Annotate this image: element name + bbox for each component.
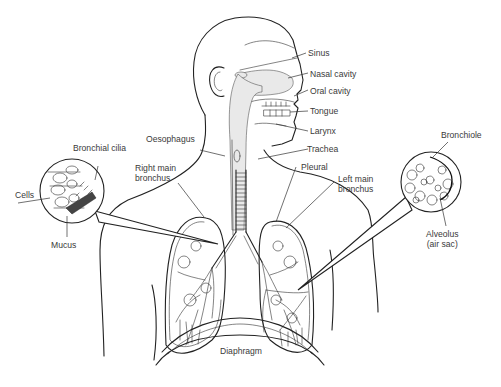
anatomy-illustration <box>0 0 501 387</box>
label-tongue: Tongue <box>310 106 338 116</box>
label-sinus: Sinus <box>308 48 330 58</box>
label-mucus: Mucus <box>51 240 76 250</box>
label-nasal-cavity: Nasal cavity <box>310 69 356 79</box>
label-oesophagus: Oesophagus <box>146 134 195 144</box>
left-inset-pointer <box>95 211 218 244</box>
right-inset-pointer <box>298 197 412 290</box>
left-lung <box>259 221 314 352</box>
label-right-main-bronchus: Right main bronchus <box>135 163 176 183</box>
label-cells: Cells <box>15 190 34 200</box>
label-bronchial-cilia: Bronchial cilia <box>73 143 126 153</box>
label-left-main-bronchus: Left main bronchus <box>338 174 373 194</box>
label-trachea: Trachea <box>307 144 338 154</box>
respiratory-diagram: Sinus Nasal cavity Oral cavity Tongue La… <box>0 0 501 387</box>
label-diaphragm: Diaphragm <box>220 346 262 356</box>
ear <box>210 67 224 97</box>
label-pleural: Pleural <box>301 162 328 172</box>
label-larynx: Larynx <box>310 126 336 136</box>
label-oral-cavity: Oral cavity <box>310 86 351 96</box>
bronchial-tree <box>176 241 302 346</box>
label-alveolus: Alveolus (air sac) <box>426 229 458 249</box>
label-bronchiole: Bronchiole <box>441 130 482 140</box>
